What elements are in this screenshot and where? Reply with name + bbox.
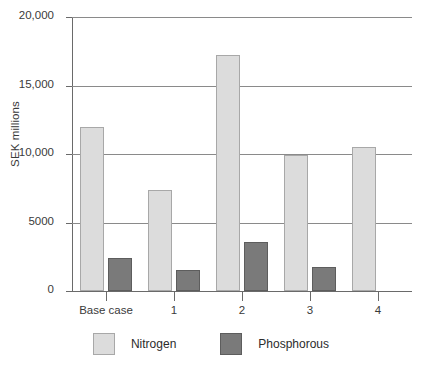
- legend-label-phosphorous: Phosphorous: [258, 337, 329, 351]
- bar-nitrogen-4: [352, 147, 376, 291]
- x-tick-label-4: 4: [338, 304, 418, 316]
- bar-phosphorous-3: [312, 267, 336, 291]
- bars-layer: [72, 17, 412, 291]
- x-tick-2: [242, 291, 243, 301]
- y-tick-label-10000: 10,000: [0, 146, 54, 158]
- bar-phosphorous-1: [176, 270, 200, 291]
- phosphorous-swatch: [220, 333, 242, 355]
- bar-nitrogen-2: [216, 55, 240, 291]
- bar-nitrogen-1: [148, 190, 172, 291]
- y-tick-label-15000: 15,000: [0, 78, 54, 90]
- nitrogen-swatch: [93, 333, 115, 355]
- y-tick-label-20000: 20,000: [0, 9, 54, 21]
- y-tick-label-0: 0: [0, 283, 54, 295]
- y-axis-title: SEK millions: [9, 79, 21, 189]
- bar-phosphorous-2: [244, 242, 268, 291]
- x-tick-3: [310, 291, 311, 301]
- bar-chart: SEK millions 0500010,00015,00020,000 Bas…: [0, 0, 422, 372]
- bar-nitrogen-0: [80, 127, 104, 291]
- chart-legend: NitrogenPhosphorous: [0, 333, 422, 355]
- plot-area: 0500010,00015,00020,000 Base case1234: [72, 17, 412, 291]
- legend-item-nitrogen: Nitrogen: [93, 333, 176, 355]
- legend-label-nitrogen: Nitrogen: [131, 337, 176, 351]
- bar-nitrogen-3: [284, 155, 308, 291]
- x-tick-0: [106, 291, 107, 301]
- y-tick-label-5000: 5000: [0, 215, 54, 227]
- bar-phosphorous-0: [108, 258, 132, 291]
- y-tick-0: [66, 291, 72, 292]
- x-tick-4: [378, 291, 379, 301]
- legend-item-phosphorous: Phosphorous: [220, 333, 329, 355]
- x-tick-1: [174, 291, 175, 301]
